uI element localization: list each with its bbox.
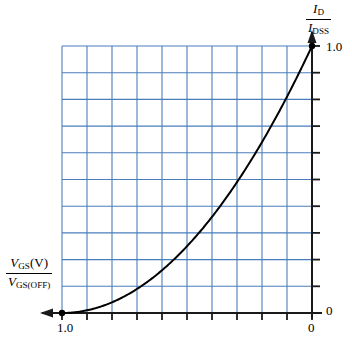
x-axis-label-numerator: VGS(V) bbox=[6, 256, 52, 273]
x-axis-label: VGS(V) VGS(OFF) bbox=[6, 256, 52, 291]
y-axis-label: ID IDSS bbox=[306, 2, 331, 37]
axis-lines bbox=[40, 30, 322, 319]
y-axis-tick-label-bottom: 0 bbox=[326, 303, 333, 319]
chart-canvas bbox=[0, 0, 352, 349]
chart-figure: VGS(V) VGS(OFF) ID IDSS 1.0 0 1.0 0 bbox=[0, 0, 352, 349]
y-axis-label-denominator: IDSS bbox=[306, 19, 331, 37]
grid-lines bbox=[62, 46, 312, 313]
tick-marks bbox=[62, 46, 320, 320]
x-axis-tick-label-right: 0 bbox=[308, 320, 315, 336]
x-axis-label-denominator: VGS(OFF) bbox=[6, 273, 52, 291]
y-axis-label-numerator: ID bbox=[306, 2, 331, 19]
y-axis-tick-label-top: 1.0 bbox=[326, 39, 342, 55]
x-axis-tick-label-left: 1.0 bbox=[57, 320, 73, 336]
